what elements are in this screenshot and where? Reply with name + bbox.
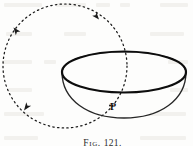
figure-drawing bbox=[0, 0, 193, 146]
figure-caption-number: 121. bbox=[104, 138, 122, 146]
bowl-rim-inner-arc bbox=[63, 52, 185, 70]
arrowhead-lower-left-icon bbox=[22, 102, 32, 112]
figure-caption: Fig. 121. bbox=[0, 128, 193, 146]
arrowhead-upper-right-icon bbox=[92, 12, 101, 21]
figure-caption-prefix: Fig. bbox=[83, 138, 100, 146]
figure-container: P Fig. 121. bbox=[0, 0, 193, 146]
bowl-body-outline bbox=[62, 72, 186, 118]
point-p-label: P bbox=[110, 101, 116, 112]
arrowhead-upper-left-icon bbox=[11, 26, 20, 35]
